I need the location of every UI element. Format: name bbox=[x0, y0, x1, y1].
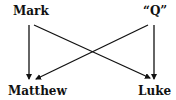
edges-layer bbox=[0, 0, 176, 100]
